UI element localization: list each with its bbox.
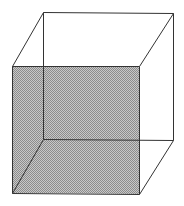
front-face-shaded bbox=[12, 66, 139, 194]
cube-diagram bbox=[0, 0, 184, 206]
